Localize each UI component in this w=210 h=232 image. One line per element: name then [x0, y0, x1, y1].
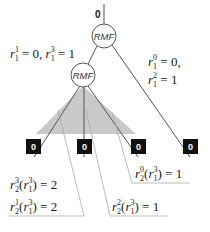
rmf-node-child[interactable]: RMF — [71, 63, 95, 87]
leaf-1-value: 0 — [31, 142, 36, 152]
callout-r2-0: r02(r31) = 1 — [135, 165, 182, 183]
branch-label-left: r11 = 0, r31 = 1 — [10, 45, 75, 63]
edge-top-to-child — [88, 46, 97, 64]
leaf-2[interactable]: 0 — [77, 139, 92, 154]
leaf-4[interactable]: 0 — [183, 139, 198, 154]
rmf-node-child-label: RMF — [73, 70, 95, 81]
branch-label-right-1: r01 = 0, — [148, 53, 181, 71]
leaf-1[interactable]: 0 — [26, 139, 41, 154]
root-value: 0 — [95, 9, 101, 20]
leaf-3[interactable]: 0 — [131, 139, 146, 154]
decision-tree-diagram: 0 RMF RMF 0 0 0 0 r11 = 0, r31 = 1 r01 =… — [0, 0, 210, 232]
callout-r2-3: r32(r31) = 2 — [10, 176, 57, 194]
branch-label-right-2: r21 = 1 — [148, 71, 177, 89]
callout-r2-1: r12(r31) = 2 — [10, 198, 57, 216]
leaf-3-value: 0 — [136, 142, 141, 152]
rmf-node-top[interactable]: RMF — [92, 24, 116, 48]
leaf-4-value: 0 — [188, 142, 193, 152]
rmf-node-top-label: RMF — [94, 31, 116, 42]
callout-r2-2: r22(r31) = 1 — [112, 198, 159, 216]
leaf-2-value: 0 — [82, 142, 87, 152]
